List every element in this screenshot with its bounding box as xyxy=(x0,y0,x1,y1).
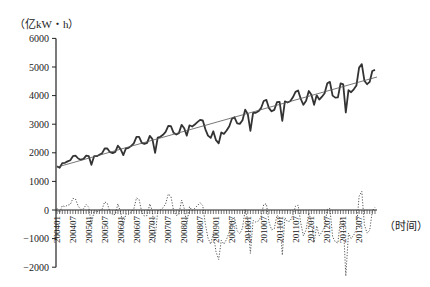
x-tick-label: 200701 xyxy=(147,216,157,243)
x-tick-label: 200501 xyxy=(84,216,94,243)
x-tick-label: 200407 xyxy=(68,216,78,244)
y-tick-label: 6000 xyxy=(29,33,49,44)
x-tick-label: 200607 xyxy=(132,216,142,244)
y-tick-label: −2000 xyxy=(23,262,49,273)
y-axis-unit-label: （亿kW・h） xyxy=(14,18,79,30)
line-chart: （亿kW・h） 6000500040003000200010000−1000−2… xyxy=(0,0,430,287)
x-tick-label: 200807 xyxy=(195,216,205,244)
y-tick-label: 2000 xyxy=(29,147,49,158)
y-tick-label: 1000 xyxy=(29,176,49,187)
y-tick-label: 0 xyxy=(44,205,49,216)
y-tick-label: 5000 xyxy=(29,62,49,73)
x-tick-label: 200507 xyxy=(100,216,110,244)
x-tick-label: 200707 xyxy=(163,216,173,244)
x-tick-label: 201307 xyxy=(354,216,364,244)
y-tick-label: 3000 xyxy=(29,119,49,130)
y-tick-label: −1000 xyxy=(23,233,49,244)
consumption-line xyxy=(57,64,375,168)
x-tick-label: 200601 xyxy=(116,216,126,243)
x-axis: 2004012004072005012005072006012006072007… xyxy=(52,210,377,243)
x-tick-label: 201007 xyxy=(259,216,269,244)
x-axis-unit-label: （时间） xyxy=(384,220,428,232)
x-tick-label: 200401 xyxy=(52,216,62,243)
x-tick-label: 200801 xyxy=(179,216,189,243)
trend-line xyxy=(57,77,377,167)
plot-area xyxy=(57,64,377,276)
x-tick-label: 201107 xyxy=(291,216,301,243)
y-tick-label: 4000 xyxy=(29,90,49,101)
x-tick-label: 200901 xyxy=(211,216,221,243)
